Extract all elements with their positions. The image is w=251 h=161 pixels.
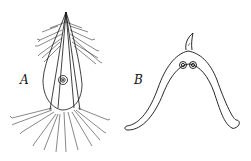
panel-label-b: B [134, 73, 143, 87]
panel-label-a: A [20, 73, 29, 87]
illustration-svg [0, 0, 251, 161]
figure: A B [0, 0, 251, 161]
